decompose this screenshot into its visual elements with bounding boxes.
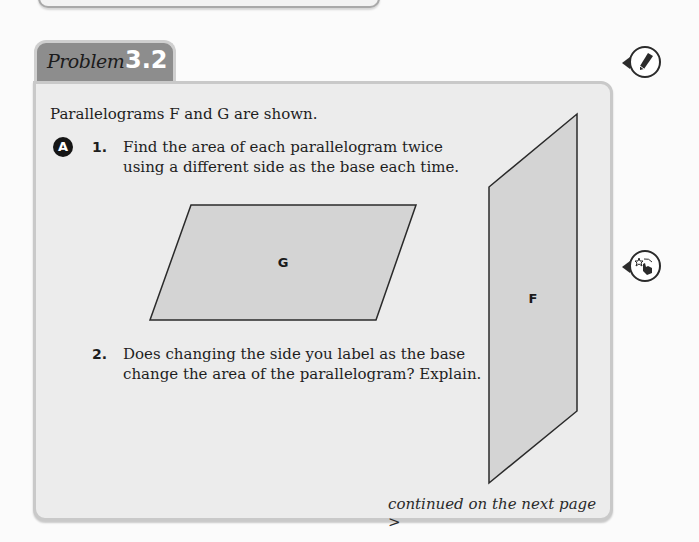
interactive-button[interactable] xyxy=(629,250,661,282)
parallelogram-g-label: G xyxy=(278,255,289,270)
parallelogram-figures: G F xyxy=(0,0,699,542)
pencil-icon xyxy=(635,52,655,72)
pencil-button[interactable] xyxy=(629,46,661,78)
parallelogram-f-label: F xyxy=(529,291,538,306)
hand-star-icon xyxy=(635,256,655,276)
